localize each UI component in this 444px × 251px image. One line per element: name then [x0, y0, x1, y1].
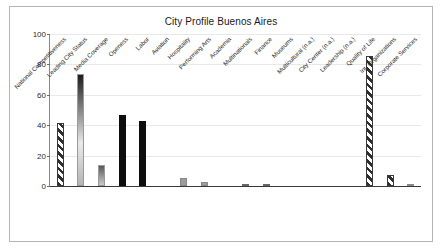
bar: [119, 115, 126, 186]
x-tick-label: Openess: [108, 36, 130, 58]
chart-title: City Profile Buenos Aires: [10, 16, 432, 27]
chart-figure: City Profile Buenos Aires 020406080100 N…: [9, 6, 433, 242]
y-tick-mark: [47, 64, 50, 65]
bar: [387, 175, 394, 186]
x-tick-label: Labor: [135, 36, 151, 52]
bar: [407, 184, 414, 186]
y-tick-mark: [47, 125, 50, 126]
y-tick-label: 60: [37, 90, 46, 99]
bar: [201, 182, 208, 186]
plot-area: 020406080100 National CompetitivenessLea…: [49, 34, 421, 187]
y-tick-mark: [47, 34, 50, 35]
y-tick-mark: [47, 186, 50, 187]
bar: [263, 184, 270, 186]
bar: [77, 74, 84, 186]
bar: [180, 178, 187, 186]
bar: [242, 184, 249, 186]
bar: [139, 121, 146, 186]
y-tick-label: 40: [37, 121, 46, 130]
y-tick-label: 20: [37, 151, 46, 160]
y-tick-label: 100: [33, 30, 46, 39]
y-tick-label: 0: [42, 182, 46, 191]
bar: [366, 56, 373, 186]
gridline: [50, 34, 421, 35]
bar: [98, 165, 105, 186]
y-tick-mark: [47, 156, 50, 157]
y-tick-mark: [47, 95, 50, 96]
x-tick-label: Corporate Services: [376, 36, 418, 78]
bar: [57, 123, 64, 186]
